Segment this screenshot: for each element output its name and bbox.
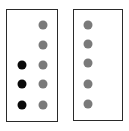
gray-dot: [39, 41, 48, 50]
gray-dot: [84, 40, 93, 49]
gray-dot: [84, 100, 93, 109]
gray-dot: [84, 59, 93, 68]
black-dot: [18, 80, 27, 89]
black-dot: [18, 101, 27, 110]
gray-dot: [84, 80, 93, 89]
gray-dot: [39, 21, 48, 30]
gray-dot: [39, 101, 48, 110]
gray-dot: [39, 80, 48, 89]
gray-dot: [39, 61, 48, 70]
black-dot: [18, 61, 27, 70]
gray-dot: [84, 21, 93, 30]
left-panel: [6, 9, 58, 122]
right-panel: [73, 9, 123, 121]
